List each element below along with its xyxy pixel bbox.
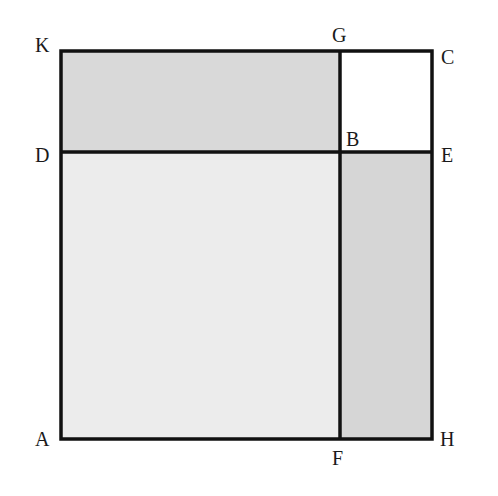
label-d: D [35, 144, 49, 166]
region-kgbd [61, 51, 340, 152]
label-h: H [440, 428, 454, 450]
label-k: K [35, 34, 50, 56]
label-f: F [332, 447, 343, 469]
label-c: C [441, 46, 454, 68]
label-b: B [346, 128, 359, 150]
label-e: E [441, 144, 453, 166]
region-behf [340, 152, 432, 439]
label-a: A [35, 428, 50, 450]
diagram-canvas: K G C D B E A F H [0, 0, 498, 496]
region-dbfa [61, 152, 340, 439]
label-g: G [332, 24, 346, 46]
